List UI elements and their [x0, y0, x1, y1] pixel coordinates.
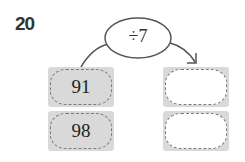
left-connector-curve: [81, 44, 108, 67]
answer-box-2[interactable]: [163, 111, 229, 151]
answer-box-1[interactable]: [163, 67, 229, 107]
operation-label: ÷7: [103, 26, 173, 47]
input-value-2: 98: [50, 113, 112, 149]
answer-field-1[interactable]: [165, 69, 227, 105]
input-value-1: 91: [50, 69, 112, 105]
input-box-1: 91: [48, 67, 114, 107]
answer-field-2[interactable]: [165, 113, 227, 149]
input-box-2: 98: [48, 111, 114, 151]
right-connector-curve: [170, 43, 195, 62]
